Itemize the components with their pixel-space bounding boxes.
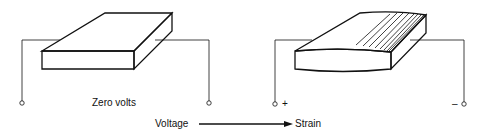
left-wires <box>20 40 211 105</box>
positive-sign: + <box>282 98 288 109</box>
piezo-diagram: Zero volts + – Voltage Strain <box>0 0 483 138</box>
negative-terminal <box>462 102 466 106</box>
left-slab <box>42 13 172 69</box>
voltage-label: Voltage <box>155 118 189 129</box>
left-terminal-b <box>207 101 211 105</box>
right-slab <box>295 12 426 72</box>
positive-terminal <box>273 102 277 106</box>
negative-sign: – <box>452 98 458 109</box>
strain-label: Strain <box>295 118 321 129</box>
arrow-icon <box>199 121 293 127</box>
zero-volts-label: Zero volts <box>92 97 136 108</box>
left-terminal-a <box>20 101 24 105</box>
